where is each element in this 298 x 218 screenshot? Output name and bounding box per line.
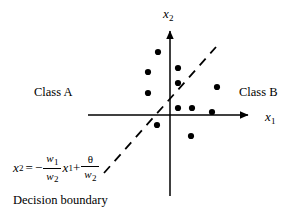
data-point	[175, 65, 181, 71]
decision-boundary-line	[104, 47, 216, 173]
data-point	[209, 109, 215, 115]
y-axis-label: x2	[163, 7, 174, 23]
data-point	[175, 80, 181, 86]
theta-numerator: θ	[85, 153, 96, 166]
fraction-denominator: w2	[43, 168, 61, 185]
data-point	[175, 105, 181, 111]
minus-sign: −	[35, 160, 42, 176]
equals-sign: =	[24, 160, 35, 176]
plot-canvas	[0, 0, 298, 218]
data-point	[145, 90, 151, 96]
theta-denominator: w2	[81, 166, 99, 183]
data-point	[155, 49, 161, 55]
decision-boundary-caption: Decision boundary	[13, 193, 108, 208]
data-point	[214, 84, 220, 90]
data-point	[189, 105, 195, 111]
data-point	[145, 69, 151, 75]
plus-sign: +	[73, 160, 80, 176]
data-point-group	[145, 49, 220, 139]
class-a-label: Class A	[34, 86, 73, 99]
decision-boundary-figure: x2 x1 Class A Class B x2 = − w1 w2 x1 + …	[0, 0, 298, 218]
class-b-label: Class B	[239, 86, 278, 99]
boundary-equation: x2 = − w1 w2 x1 + θ w2	[13, 152, 100, 184]
theta-ratio-fraction: θ w2	[81, 153, 99, 183]
fraction-numerator: w1	[43, 152, 61, 168]
x-axis-label: x1	[265, 110, 276, 126]
weight-ratio-fraction: w1 w2	[43, 152, 61, 184]
data-point	[188, 133, 194, 139]
data-point	[154, 122, 160, 128]
